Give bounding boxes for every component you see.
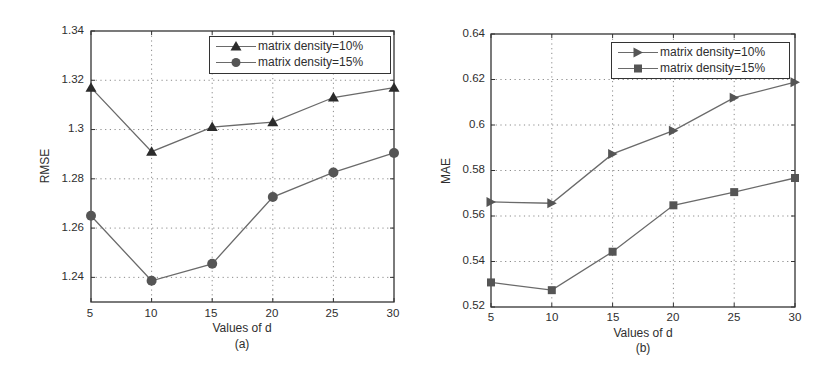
x-tick-label: 10 (136, 307, 166, 319)
figure-rmse: 1.34 1.32 1.3 1.28 1.26 1.24 5 10 15 20 … (0, 0, 417, 377)
series-line (491, 82, 795, 203)
legend-item-density-15: matrix density=15% (612, 60, 789, 77)
y-tick-label: 0.54 (445, 254, 485, 266)
legend-label: matrix density=10% (660, 45, 765, 59)
circle-marker (207, 259, 217, 269)
circle-marker (147, 276, 157, 286)
square-marker (791, 174, 799, 182)
triangle-right-marker-icon (618, 44, 658, 61)
square-marker (609, 248, 617, 256)
circle-marker (86, 211, 96, 221)
triangle-marker (389, 82, 400, 92)
series-line (91, 88, 394, 152)
triangle-right-marker (669, 126, 679, 136)
x-axis-label: Values of d (583, 326, 703, 340)
square-marker-icon (618, 60, 658, 77)
y-tick-label: 1.3 (44, 122, 84, 134)
y-tick-label: 0.52 (445, 299, 485, 311)
x-tick-label: 20 (257, 307, 287, 319)
legend: matrix density=10% matrix density=15% (209, 36, 391, 74)
y-tick-label: 0.6 (445, 118, 485, 130)
circle-marker (328, 167, 338, 177)
y-tick-label: 0.64 (445, 27, 485, 39)
circle-marker (268, 192, 278, 202)
series-line (491, 178, 795, 290)
triangle-marker (267, 117, 278, 127)
square-marker (669, 201, 677, 209)
x-tick-label: 15 (196, 307, 226, 319)
legend-label: matrix density=15% (258, 55, 363, 69)
circle-marker (389, 148, 399, 158)
circle-marker-icon (216, 54, 256, 71)
x-axis-label: Values of d (182, 321, 302, 335)
x-tick-label: 5 (476, 311, 506, 323)
figure-caption: (a) (222, 337, 262, 351)
legend-label: matrix density=15% (660, 61, 765, 75)
legend-item-density-10: matrix density=10% (210, 38, 390, 55)
square-marker (730, 188, 738, 196)
triangle-marker (86, 82, 97, 92)
y-tick-label: 1.24 (44, 270, 84, 282)
x-tick-label: 5 (75, 307, 105, 319)
figure-caption: (b) (623, 341, 663, 355)
square-marker (487, 278, 495, 286)
y-tick-label: 0.56 (445, 208, 485, 220)
legend-item-density-10: matrix density=10% (612, 44, 789, 61)
y-tick-label: 1.34 (44, 24, 84, 36)
x-tick-label: 25 (317, 307, 347, 319)
triangle-right-marker (730, 93, 740, 103)
square-marker (548, 286, 556, 294)
y-axis-label: RMSE (38, 136, 52, 196)
x-tick-label: 10 (537, 311, 567, 323)
y-tick-label: 0.62 (445, 72, 485, 84)
x-tick-label: 25 (719, 311, 749, 323)
x-tick-label: 30 (780, 311, 810, 323)
legend-label: matrix density=10% (258, 39, 363, 53)
y-tick-label: 1.32 (44, 73, 84, 85)
y-tick-label: 1.26 (44, 221, 84, 233)
x-tick-label: 20 (658, 311, 688, 323)
x-tick-label: 30 (378, 307, 408, 319)
triangle-marker-icon (216, 38, 256, 55)
legend-item-density-15: matrix density=15% (210, 54, 390, 71)
x-tick-label: 15 (598, 311, 628, 323)
y-axis-label: MAE (439, 141, 453, 201)
legend: matrix density=10% matrix density=15% (611, 42, 790, 79)
figure-mae: 0.64 0.62 0.6 0.58 0.56 0.54 0.52 5 10 1… (415, 0, 832, 377)
series-line (91, 153, 394, 281)
